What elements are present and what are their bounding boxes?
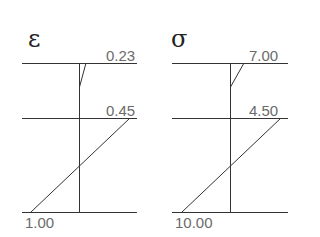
stress-top-distribution bbox=[231, 63, 245, 87]
strain-top-value: 0.23 bbox=[106, 48, 135, 63]
strain-diagram bbox=[22, 63, 137, 213]
stress-middle-value: 4.50 bbox=[249, 103, 278, 118]
stress-diagram bbox=[172, 63, 288, 213]
stress-bottom-value: 10.00 bbox=[175, 215, 213, 230]
strain-symbol: ε bbox=[28, 27, 40, 51]
stress-symbol: σ bbox=[171, 27, 187, 51]
strain-top-distribution bbox=[80, 63, 87, 87]
strain-main-distribution bbox=[31, 118, 130, 212]
strain-middle-value: 0.45 bbox=[106, 103, 135, 118]
stress-main-distribution bbox=[182, 118, 281, 212]
strain-bottom-value: 1.00 bbox=[25, 215, 54, 230]
stress-top-value: 7.00 bbox=[249, 48, 278, 63]
